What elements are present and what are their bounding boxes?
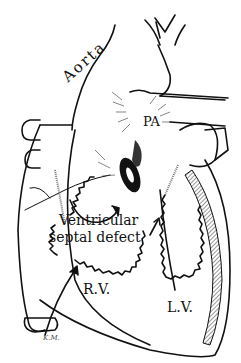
lv-wall [185,170,222,345]
heart-diagram: Aorta PA Ventricular septal defect R.V. … [0,0,241,363]
label-left-ventricle: L.V. [167,300,193,314]
label-vsd-line2: septal defect [49,230,141,244]
label-right-ventricle: R.V. [83,282,110,296]
label-vsd-line1: Ventricular [59,213,138,227]
heart-illustration [0,0,241,363]
label-pulmonary-artery: PA [143,115,160,128]
artist-signature: K.M. [43,335,60,342]
